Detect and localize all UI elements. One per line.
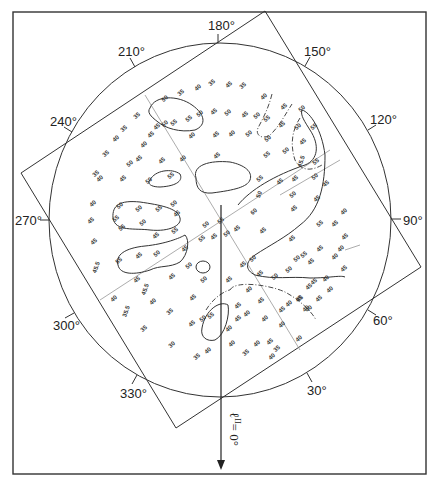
- data-value-label: 50: [125, 159, 134, 168]
- data-value-label: 35: [207, 78, 216, 87]
- data-value-label: 55: [262, 150, 271, 159]
- data-value-label: 40: [193, 83, 202, 92]
- angle-label-180: 180°: [208, 18, 235, 33]
- data-value-label: 55: [311, 157, 320, 166]
- data-value-label: 45: [187, 319, 196, 328]
- data-value-label: 45: [118, 174, 127, 183]
- data-value-label: 45: [232, 224, 241, 233]
- data-value-label: 50: [201, 220, 210, 229]
- data-value-label: 45: [209, 107, 218, 116]
- data-value-label: 40: [88, 199, 97, 208]
- data-value-label: 50: [263, 134, 272, 143]
- data-value-label: 40: [321, 274, 330, 283]
- data-value-label: 45: [224, 80, 233, 89]
- data-value-label: 55: [315, 219, 324, 228]
- data-value-label: 45: [265, 337, 274, 346]
- data-value-label: 40: [203, 346, 212, 355]
- data-value-label: 45: [233, 314, 242, 323]
- data-value-label: 40: [139, 140, 148, 149]
- data-value-label: 55: [206, 311, 215, 320]
- data-value-label: 45: [256, 296, 265, 305]
- data-value-label: 55: [114, 256, 123, 265]
- angle-label-300: 300°: [53, 318, 80, 333]
- data-value-label: 35: [176, 88, 185, 97]
- data-value-label: 40: [284, 299, 293, 308]
- data-value-label: 45: [151, 231, 160, 240]
- angle-label-330: 330°: [120, 386, 147, 401]
- data-value-label: 55: [117, 223, 126, 232]
- contour-small-left: [149, 171, 181, 187]
- data-value-label: 40: [259, 92, 268, 101]
- data-value-label: 55: [197, 234, 206, 243]
- angle-label-150: 150°: [304, 44, 331, 59]
- data-value-label: 40: [227, 339, 236, 348]
- data-value-label: 55: [166, 171, 175, 180]
- data-value-label: 55: [309, 122, 318, 131]
- data-value-label: 55: [299, 250, 308, 259]
- data-value-label: 45.5: [296, 154, 306, 168]
- data-value-label: 45: [146, 130, 155, 139]
- data-value-label: 35: [192, 352, 201, 361]
- angle-label-60: 60°: [373, 313, 393, 328]
- data-value-label: 40: [244, 285, 253, 294]
- data-value-label: 50: [252, 111, 261, 120]
- data-value-label: 50: [152, 249, 161, 258]
- angle-labels: 180° 210° 150° 240° 120° 270° 90° 300° 6…: [15, 18, 423, 401]
- data-value-label: 35: [101, 149, 110, 158]
- data-value-label: 45: [89, 237, 98, 246]
- data-value-label: 45: [233, 301, 242, 310]
- data-value-label: 45: [209, 232, 218, 241]
- data-value-label: 50: [184, 261, 193, 270]
- data-value-label: 45: [86, 216, 95, 225]
- data-value-label: 55: [169, 118, 178, 127]
- data-value-label: 45: [211, 130, 220, 139]
- data-value-label: 55: [170, 226, 179, 235]
- data-value-label: 50: [160, 119, 169, 128]
- data-value-label: 45: [279, 102, 288, 111]
- data-value-label: 50: [195, 109, 204, 118]
- data-value-label: 35: [139, 324, 148, 333]
- data-value-label: 45: [287, 234, 296, 243]
- data-value-label: 40: [109, 294, 118, 303]
- data-value-label: 45: [188, 293, 197, 302]
- data-value-label: 40: [336, 244, 345, 253]
- data-value-label: 40: [252, 339, 261, 348]
- data-value-label: 45: [315, 244, 324, 253]
- data-value-label: 35: [272, 344, 281, 353]
- data-value-label: 45: [224, 275, 233, 284]
- angle-label-120: 120°: [370, 112, 397, 127]
- data-value-label: 55: [184, 114, 193, 123]
- data-value-label: 45: [258, 226, 267, 235]
- data-value-label: 55: [216, 216, 225, 225]
- data-value-label: 50: [169, 199, 178, 208]
- data-value-label: 50: [160, 94, 169, 103]
- data-value-label: 45: [295, 294, 304, 303]
- data-value-label: 50: [284, 265, 293, 274]
- data-value-label: 45: [277, 120, 286, 129]
- data-value-label: 45.5: [91, 260, 101, 274]
- contour-center: [195, 162, 250, 194]
- angle-label-210: 210°: [118, 44, 145, 59]
- data-value-label: 45: [134, 154, 143, 163]
- data-value-label: 45: [275, 177, 284, 186]
- data-value-label: 50: [222, 229, 231, 238]
- data-value-label: 45: [132, 275, 141, 284]
- data-value-label: 40: [227, 129, 236, 138]
- data-value-label: 45: [212, 151, 221, 160]
- data-value-label: 45: [298, 137, 307, 146]
- data-value-label: 50: [255, 190, 263, 199]
- data-value-label: 35.5: [121, 304, 131, 318]
- data-value-labels: 3540354535505550455045505535455055404540…: [86, 78, 349, 361]
- angle-label-270: 270°: [15, 213, 42, 228]
- data-value-label: 45: [180, 244, 189, 253]
- data-value-label: 50: [244, 129, 253, 138]
- data-value-label: 45: [167, 272, 176, 281]
- data-value-label: 40: [260, 314, 269, 323]
- data-value-label: 40: [325, 285, 334, 294]
- data-value-label: 40: [187, 131, 196, 140]
- data-value-label: 30: [167, 340, 176, 349]
- svg-text:ℓII= 0°: ℓII= 0°: [227, 412, 242, 446]
- data-value-label: 40: [294, 334, 303, 343]
- data-value-label: 40: [242, 309, 251, 318]
- data-value-label: 40: [148, 297, 157, 306]
